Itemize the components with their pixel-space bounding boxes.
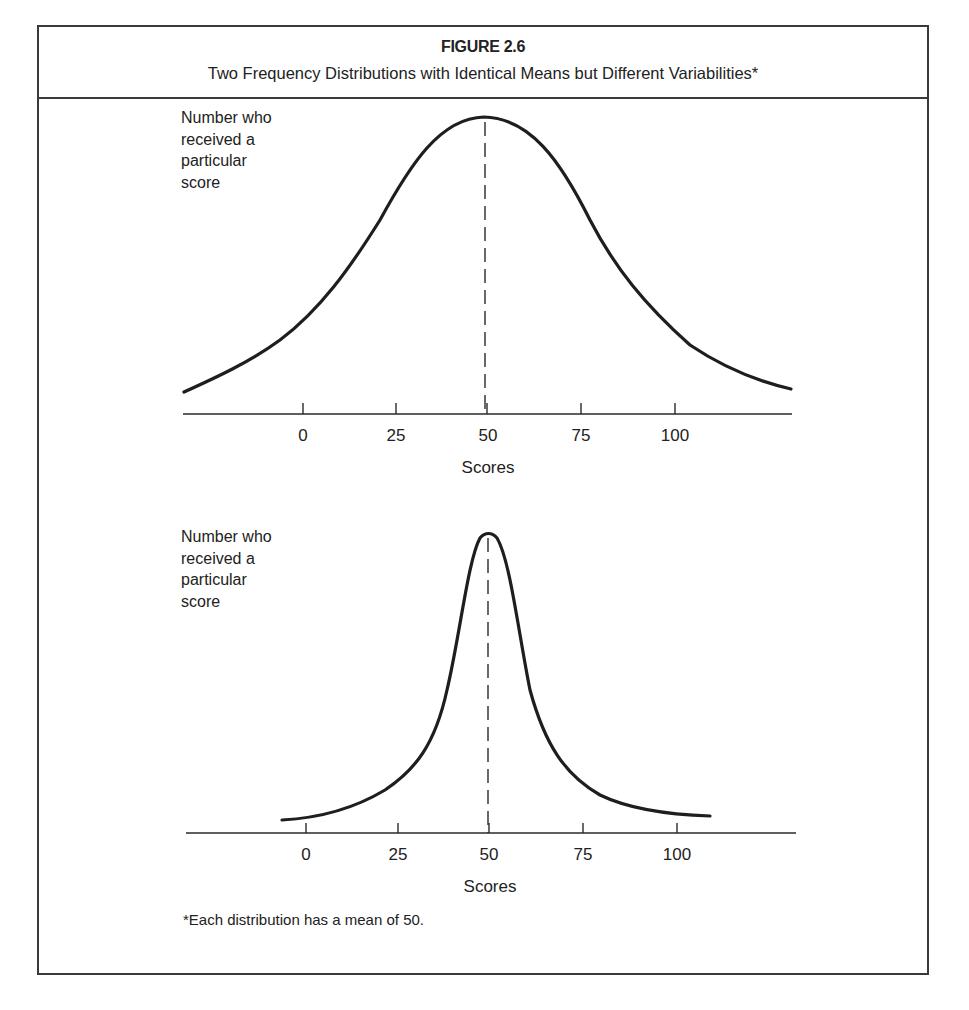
- top-y-axis-label: Number who received a particular score: [181, 107, 321, 193]
- top-tick-label-0: 0: [298, 426, 307, 446]
- top-ylabel-line: particular: [181, 150, 321, 172]
- figure-footnote: *Each distribution has a mean of 50.: [183, 911, 424, 928]
- bottom-tick-label-50: 50: [480, 845, 499, 865]
- top-tick-label-75: 75: [572, 426, 591, 446]
- top-ylabel-line: received a: [181, 129, 321, 151]
- top-tick-label-25: 25: [387, 426, 406, 446]
- top-tick-label-100: 100: [661, 426, 689, 446]
- bottom-y-axis-label: Number who received a particular score: [181, 526, 321, 612]
- top-tick-label-50: 50: [479, 426, 498, 446]
- top-ylabel-line: score: [181, 172, 321, 194]
- bottom-ylabel-line: received a: [181, 548, 321, 570]
- bottom-ylabel-line: score: [181, 591, 321, 613]
- bottom-x-axis-label: Scores: [464, 877, 517, 897]
- bottom-tick-label-100: 100: [663, 845, 691, 865]
- bottom-ylabel-line: particular: [181, 569, 321, 591]
- bottom-tick-label-25: 25: [389, 845, 408, 865]
- bottom-ticks: [306, 823, 677, 833]
- bottom-ylabel-line: Number who: [181, 526, 321, 548]
- top-ticks: [303, 403, 675, 414]
- bottom-tick-label-75: 75: [574, 845, 593, 865]
- top-x-axis-label: Scores: [462, 458, 515, 478]
- bottom-tick-label-0: 0: [301, 845, 310, 865]
- top-ylabel-line: Number who: [181, 107, 321, 129]
- bottom-distribution-curve: [282, 534, 710, 821]
